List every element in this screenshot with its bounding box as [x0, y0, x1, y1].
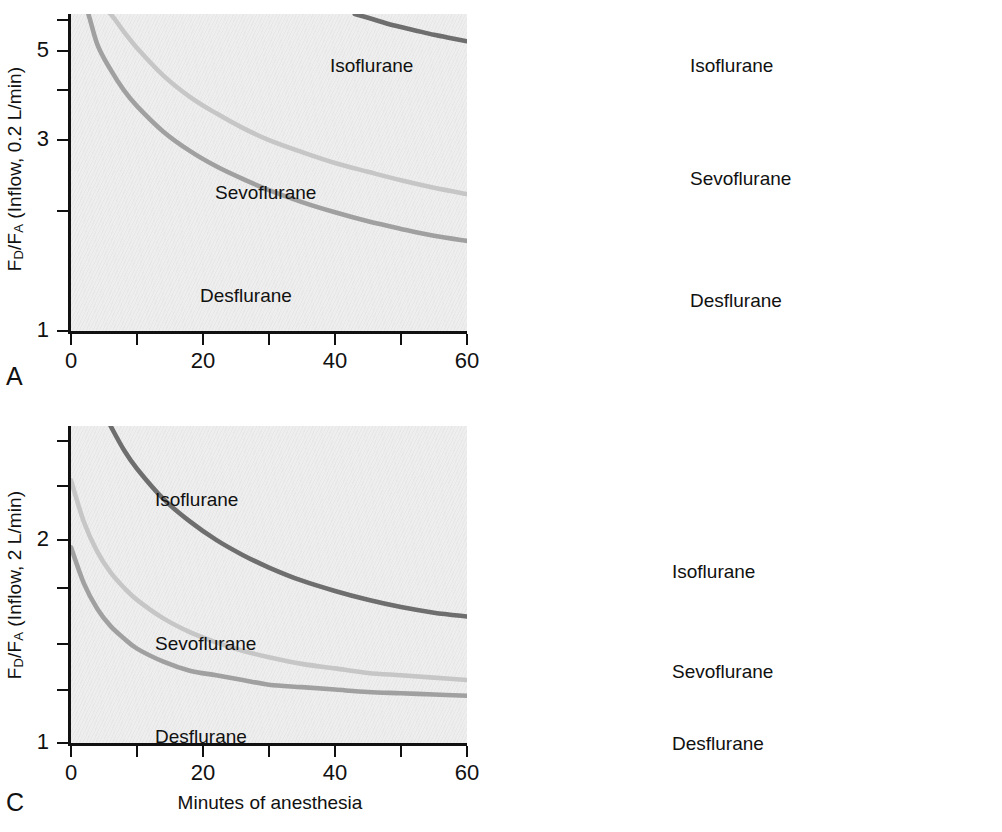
- y-tick-a-5: [57, 19, 68, 21]
- y-title-slash: /F: [4, 233, 25, 250]
- y-title-sub-a: A: [11, 632, 26, 641]
- panel-c-letter: C: [6, 788, 24, 817]
- panel-c: FD/FA (Inflow, 2 L/min) C Minutes of ane…: [0, 400, 501, 832]
- x-tick-c-3: [268, 746, 270, 757]
- x-tick-c-0: [70, 746, 72, 757]
- curve-sevoflurane-c: [71, 480, 467, 680]
- y-tick-label-c-1: 1: [9, 729, 49, 755]
- y-tick-c-1: [57, 689, 68, 691]
- x-tick-label-c-60: 60: [442, 760, 492, 786]
- y-tick-label-a-1: 1: [9, 317, 49, 343]
- panel-c-y-axis-title: FD/FA (Inflow, 2 L/min): [4, 420, 26, 750]
- y-tick-a-3: [57, 89, 68, 91]
- curve-label-sevoflurane-b: Sevoflurane: [690, 168, 791, 190]
- curve-isoflurane-a: [355, 14, 467, 41]
- y-tick-a-2: [57, 139, 68, 141]
- y-title-sub-d: D: [11, 658, 26, 668]
- curve-label-sevoflurane-c: Sevoflurane: [155, 633, 256, 655]
- y-tick-c-4: [57, 539, 68, 541]
- y-title-sub-d: D: [11, 250, 26, 260]
- y-tick-a-4: [57, 50, 68, 52]
- x-tick-label-c-40: 40: [310, 760, 360, 786]
- curve-label-desflurane-a: Desflurane: [200, 285, 292, 307]
- panel-a: FD/FA (Inflow, 0.2 L/min) A 1350204060: [0, 0, 501, 416]
- x-tick-a-5: [400, 334, 402, 345]
- x-tick-a-1: [136, 334, 138, 345]
- x-tick-label-a-20: 20: [178, 348, 228, 374]
- x-tick-a-6: [466, 334, 468, 345]
- y-title-f: F: [4, 259, 25, 271]
- curve-label-desflurane-c: Desflurane: [155, 726, 247, 748]
- curve-label-desflurane-d: Desflurane: [672, 733, 764, 755]
- x-tick-c-5: [400, 746, 402, 757]
- curve-isoflurane-c: [111, 426, 467, 616]
- x-tick-c-4: [334, 746, 336, 757]
- x-tick-label-c-0: 0: [46, 760, 96, 786]
- curve-label-desflurane-b: Desflurane: [690, 290, 782, 312]
- y-title-sub-a: A: [11, 224, 26, 233]
- y-tick-label-a-3: 3: [9, 126, 49, 152]
- y-tick-c-3: [57, 587, 68, 589]
- curve-label-isoflurane-b: Isoflurane: [690, 55, 773, 77]
- y-tick-c-5: [57, 485, 68, 487]
- panel-d: FD/FA (Inflow, 4 L/min) D Minutes of ane…: [501, 400, 1002, 832]
- curve-label-sevoflurane-d: Sevoflurane: [672, 661, 773, 683]
- curve-label-sevoflurane-a: Sevoflurane: [215, 182, 316, 204]
- y-title-f: F: [4, 667, 25, 679]
- y-tick-label-a-5: 5: [9, 37, 49, 63]
- x-tick-a-4: [334, 334, 336, 345]
- y-title-slash: /F: [4, 641, 25, 658]
- x-tick-label-c-20: 20: [178, 760, 228, 786]
- x-tick-a-3: [268, 334, 270, 345]
- x-tick-label-a-40: 40: [310, 348, 360, 374]
- y-title-rest: (Inflow, 2 L/min): [4, 491, 25, 632]
- x-tick-c-6: [466, 746, 468, 757]
- curves-c: [71, 426, 467, 743]
- y-tick-c-0: [57, 742, 68, 744]
- panel-a-letter: A: [6, 362, 23, 391]
- panel-c-x-axis-title: Minutes of anesthesia: [70, 792, 470, 814]
- curve-label-isoflurane-a: Isoflurane: [330, 55, 413, 77]
- x-tick-label-a-60: 60: [442, 348, 492, 374]
- curve-label-isoflurane-d: Isoflurane: [672, 561, 755, 583]
- curve-desflurane-a: [71, 0, 467, 241]
- x-tick-a-0: [70, 334, 72, 345]
- y-tick-c-2: [57, 643, 68, 645]
- y-tick-a-0: [57, 330, 68, 332]
- y-tick-label-c-2: 2: [9, 526, 49, 552]
- x-tick-label-a-0: 0: [46, 348, 96, 374]
- x-tick-a-2: [202, 334, 204, 345]
- curve-label-isoflurane-c: Isoflurane: [155, 489, 238, 511]
- y-tick-c-6: [57, 440, 68, 442]
- panel-c-plot: 120204060: [71, 426, 467, 743]
- figure-root: FD/FA (Inflow, 0.2 L/min) A 1350204060 F…: [0, 0, 1002, 832]
- y-tick-a-1: [57, 210, 68, 212]
- x-tick-c-1: [136, 746, 138, 757]
